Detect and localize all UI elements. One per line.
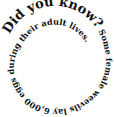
spiral-svg: Did you know? Some female weevils lay 6,… bbox=[0, 0, 114, 117]
spiral-fact-text: Did you know? Some female weevils lay 6,… bbox=[0, 0, 114, 117]
spiral-text-graphic: Did you know? Some female weevils lay 6,… bbox=[0, 0, 114, 117]
fact-body: Some female weevils lay 6,000 eggs durin… bbox=[6, 16, 114, 117]
